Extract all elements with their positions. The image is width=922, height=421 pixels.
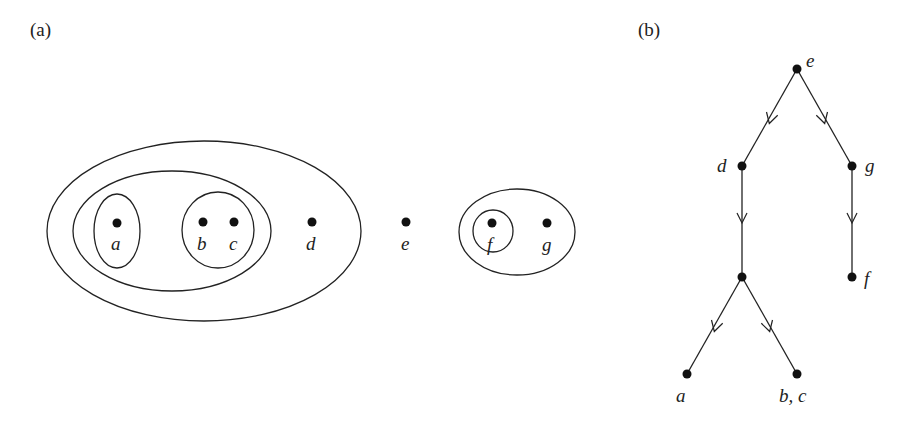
label-a: a (111, 233, 121, 254)
edge-m-a (687, 277, 742, 374)
label-c: c (229, 233, 238, 254)
node-d (738, 162, 747, 171)
point-b (199, 218, 208, 227)
figure: (a) a b c d e f g (b) (0, 0, 922, 421)
node-a (683, 370, 692, 379)
point-a (113, 219, 122, 228)
node-label-a: a (676, 385, 686, 406)
set-a (94, 194, 140, 268)
node-f (848, 273, 857, 282)
label-e: e (401, 233, 409, 254)
edge-e-g (797, 69, 852, 166)
set-f (473, 210, 513, 252)
point-d (308, 218, 317, 227)
edge-e-d (742, 69, 797, 166)
set-fg (459, 189, 575, 275)
set-bc (182, 192, 254, 268)
point-e (402, 218, 411, 227)
edge-m-bc (742, 277, 797, 374)
node-unlabeled (738, 273, 747, 282)
point-f (488, 219, 497, 228)
node-e (793, 65, 802, 74)
panel-a-label: (a) (30, 19, 51, 41)
panel-a: (a) a b c d e f g (30, 19, 575, 321)
label-b: b (197, 233, 207, 254)
point-g (543, 219, 552, 228)
node-label-bc: b, c (779, 385, 807, 406)
node-bc (793, 370, 802, 379)
node-g (848, 162, 857, 171)
panel-b: (b) e d g f a b, c (638, 19, 875, 406)
point-c (230, 218, 239, 227)
node-label-e: e (806, 50, 814, 71)
node-label-g: g (865, 155, 875, 176)
panel-b-label: (b) (638, 19, 660, 41)
label-d: d (306, 233, 316, 254)
label-g: g (542, 234, 552, 255)
node-label-d: d (717, 155, 727, 176)
node-label-f: f (864, 268, 872, 289)
set-abc (73, 171, 271, 291)
